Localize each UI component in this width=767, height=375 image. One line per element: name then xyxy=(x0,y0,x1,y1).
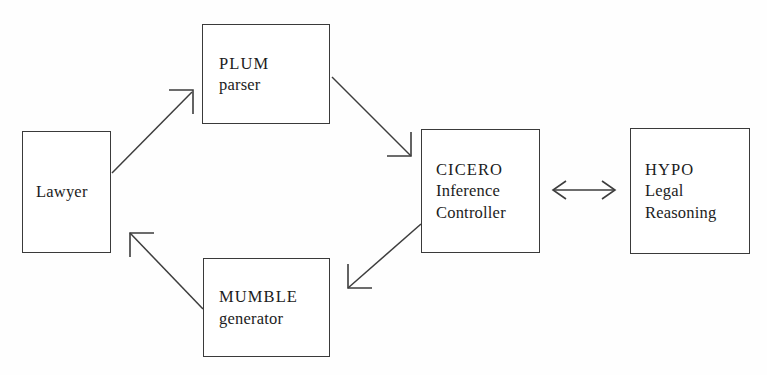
node-hypo-label: HYPO Legal Reasoning xyxy=(631,159,716,223)
node-plum-line-1: PLUM xyxy=(219,53,269,74)
node-plum-line-2: parser xyxy=(219,74,269,95)
node-mumble-generator[interactable]: MUMBLE generator xyxy=(203,258,330,357)
node-cicero-inference-controller[interactable]: CICERO Inference Controller xyxy=(421,129,540,253)
node-mumble-label: MUMBLE generator xyxy=(204,286,298,329)
node-lawyer-line-1: Lawyer xyxy=(36,181,88,202)
edge-plum-to-cicero xyxy=(332,77,411,156)
node-plum-parser[interactable]: PLUM parser xyxy=(202,24,330,124)
edge-mumble-to-lawyer xyxy=(130,233,203,309)
edge-lawyer-to-plum xyxy=(112,90,193,173)
diagram-canvas: Lawyer PLUM parser CICERO Inference Cont… xyxy=(0,0,767,375)
node-hypo-line-2: Legal xyxy=(645,180,716,201)
edge-cicero-to-mumble xyxy=(348,224,421,288)
node-cicero-line-2: Inference xyxy=(436,180,506,201)
node-cicero-label: CICERO Inference Controller xyxy=(422,159,506,223)
node-mumble-line-2: generator xyxy=(219,308,298,329)
node-plum-label: PLUM parser xyxy=(203,53,269,96)
node-lawyer-label: Lawyer xyxy=(23,181,88,202)
node-cicero-line-3: Controller xyxy=(436,202,506,223)
node-cicero-line-1: CICERO xyxy=(436,159,506,180)
node-mumble-line-1: MUMBLE xyxy=(219,286,298,307)
edge-cicero-hypo-bidirectional xyxy=(553,181,615,199)
node-hypo-line-3: Reasoning xyxy=(645,202,716,223)
node-lawyer[interactable]: Lawyer xyxy=(22,131,111,253)
node-hypo-line-1: HYPO xyxy=(645,159,716,180)
node-hypo-legal-reasoning[interactable]: HYPO Legal Reasoning xyxy=(630,128,750,254)
